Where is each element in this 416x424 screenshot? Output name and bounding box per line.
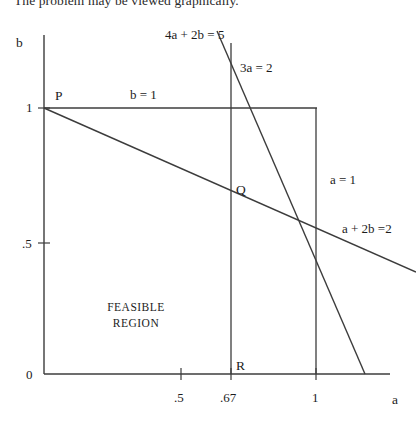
label-b-equals-1: b = 1	[130, 88, 157, 102]
x-tick-label-067: .67	[220, 390, 236, 406]
point-label-P: P	[55, 88, 63, 104]
line-4a-plus-2b-equals-5	[217, 31, 365, 374]
label-4a-plus-2b-equals-5: 4a + 2b = 5	[165, 28, 224, 42]
x-tick-label-half: .5	[174, 390, 184, 406]
origin-tick-label: 0	[26, 367, 33, 383]
y-tick-label-half: .5	[22, 236, 32, 252]
x-axis-label: a	[392, 392, 398, 408]
y-tick-label-1: 1	[26, 100, 33, 116]
y-axis-label: b	[16, 35, 23, 51]
line-a-plus-2b-equals-2	[44, 108, 416, 272]
plot-canvas	[0, 0, 416, 424]
label-3a-equals-2: 3a = 2	[240, 61, 273, 75]
x-tick-label-1: 1	[312, 390, 319, 406]
label-a-plus-2b-equals-2: a + 2b =2	[342, 222, 392, 236]
label-a-equals-1: a = 1	[330, 173, 356, 187]
feasible-region-label: FEASIBLE REGION	[86, 300, 186, 331]
point-label-R: R	[236, 358, 245, 374]
point-label-Q: Q	[236, 182, 246, 198]
graph-figure: The problem may be viewed graphically. b…	[0, 0, 416, 424]
